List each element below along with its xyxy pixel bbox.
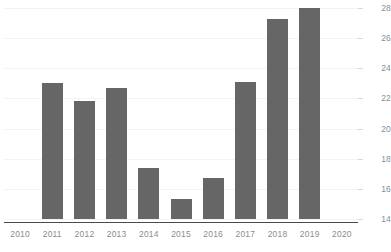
x-tick-label-2015: 2015 (171, 230, 191, 239)
x-tick-label-2011: 2011 (43, 230, 62, 239)
x-tick-label-2018: 2018 (268, 230, 288, 239)
bar-chart: 1416182022242628 20102011201220132014201… (0, 0, 391, 252)
x-tick-label-2020: 2020 (332, 230, 352, 239)
x-tick-label-2010: 2010 (10, 230, 30, 239)
x-axis: 2010201120122013201420152016201720182019… (0, 0, 391, 252)
x-tick-label-2012: 2012 (75, 230, 95, 239)
x-tick-label-2016: 2016 (203, 230, 223, 239)
x-tick-label-2019: 2019 (300, 230, 320, 239)
x-tick-label-2014: 2014 (139, 230, 159, 239)
x-tick-label-2017: 2017 (236, 230, 256, 239)
x-tick-label-2013: 2013 (107, 230, 127, 239)
